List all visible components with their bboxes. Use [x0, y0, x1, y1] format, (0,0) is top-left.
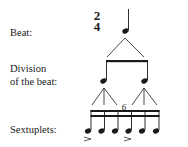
rhythm-tree-diagram: 6	[0, 0, 188, 147]
quarter-note-icon	[121, 9, 129, 35]
sixteenth-notes-icon	[84, 110, 160, 135]
eighth-notes-icon	[99, 60, 148, 85]
tuplet-number: 6	[122, 102, 127, 112]
accent-icon	[84, 137, 131, 141]
